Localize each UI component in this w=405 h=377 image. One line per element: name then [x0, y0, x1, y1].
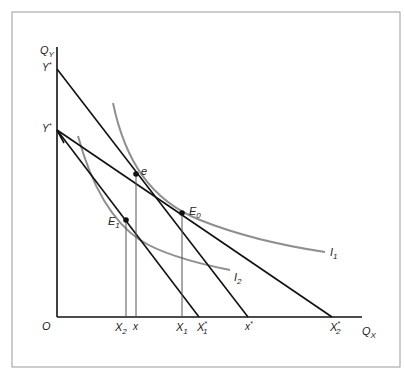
budget-line-steep [57, 130, 199, 317]
point-e0 [179, 210, 185, 216]
y-tick-lower: Y* [42, 122, 52, 134]
y-tick-upper: Y* [42, 61, 52, 73]
x-tick-x2-star: X*2 [329, 320, 341, 336]
point-e-label: e [141, 165, 147, 177]
y-axis-label: QY [40, 44, 55, 59]
x-tick-x: x [132, 321, 139, 332]
x-tick-x-star: x* [244, 320, 253, 332]
indifference-curve-i2 [78, 136, 230, 270]
budget-line-flat [57, 130, 332, 317]
x-axis-label: QX [362, 325, 377, 340]
indifference-curve-diagram: QY QX O Y* Y* X2 x X1 X*1 x* X*2 e E0 E1… [0, 0, 405, 377]
point-e1 [123, 217, 129, 223]
figure-frame [12, 12, 400, 367]
budget-line-upper [57, 69, 248, 317]
point-e1-label: E1 [108, 215, 120, 230]
origin-label: O [42, 320, 51, 332]
curve-i2-label: I2 [234, 271, 242, 286]
point-e [133, 171, 139, 177]
curve-i1-label: I1 [330, 246, 338, 261]
x-tick-x2: X2 [114, 321, 127, 336]
x-tick-x1-star: X*1 [196, 320, 208, 336]
indifference-curve-i1 [113, 103, 325, 252]
x-tick-x1: X1 [175, 321, 188, 336]
